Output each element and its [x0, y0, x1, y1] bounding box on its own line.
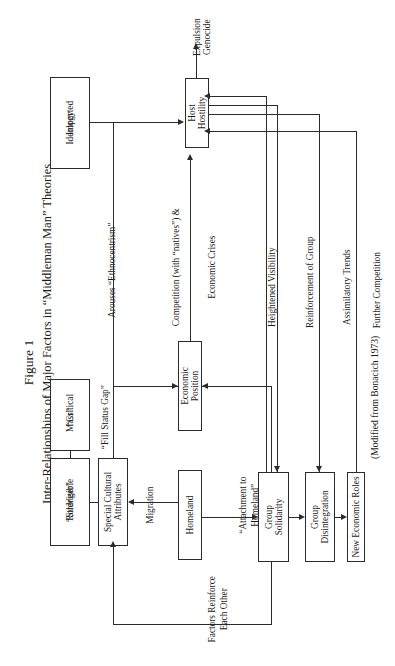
node-special-cultural-attributes: Special Cultural Attributes [98, 458, 128, 546]
edge-label-assimilatory-trends: Assimilatory Trends [342, 222, 352, 352]
edge-label-factors-reinforce-2: Each Other [219, 554, 229, 664]
node-label: Group [263, 473, 273, 561]
connector-hostility-to-expulsion [196, 48, 197, 78]
node-label: Ideology [65, 83, 75, 173]
node-label: Attributes [113, 459, 123, 545]
connector-attachment-to-homeland [202, 517, 253, 518]
figure-title: Inter-Relationships of Major Factors in … [40, 174, 54, 504]
node-label: Economic [180, 342, 190, 430]
node-new-economic-roles: New Economic Roles [347, 472, 365, 562]
node-label: Solidarity [273, 473, 283, 561]
connector-economic-inflow-right [208, 386, 272, 387]
figure-number: Figure 1 [21, 298, 36, 428]
arrowhead-right [252, 514, 258, 520]
connector-fillstatusgap-vertical [113, 386, 114, 458]
node-label: Position [190, 342, 200, 430]
node-label: Hostility [197, 78, 207, 148]
node-label: Group [310, 471, 320, 563]
connector-visibility-horizontal [209, 96, 267, 97]
node-label: Role [65, 472, 75, 552]
node-label: Host [187, 78, 197, 148]
connector-visibility-vertical [266, 96, 267, 472]
edge-label-further-competition: Further Competition [372, 228, 382, 353]
edge-label-factors-reinforce: Factors Reinforce [207, 554, 217, 664]
edge-label-reinforcement-of-group: Reinforcement of Group [305, 212, 315, 352]
arrowhead-right [178, 119, 184, 125]
node-homeland: Homeland [178, 470, 202, 560]
connector-migration [133, 502, 178, 503]
edge-label-arouses-ethnocentrism: Arouses “Ethnocentrism” [107, 195, 117, 345]
arrowhead-right [341, 514, 347, 520]
arrowhead-up [187, 154, 193, 160]
edge-label-heightened-visibility: Heightened Visibility [267, 222, 277, 352]
edge-label-attachment-to-homeland-2: Homeland” [250, 462, 260, 548]
arrowhead-up [110, 541, 116, 547]
node-host-hostility: Host Hostility [185, 78, 209, 148]
arrowhead-right [299, 514, 305, 520]
connector-economic-inflow-riser [271, 386, 272, 472]
connector-further-competition-vertical [356, 131, 357, 472]
connector-stranger-to-cultural [90, 502, 98, 503]
arrowhead-right [172, 383, 178, 389]
connector-assimilatory-vertical [319, 114, 320, 472]
node-label: Disintegration [320, 471, 330, 563]
arrowhead-left [204, 93, 210, 99]
outcome-genocide: Genocide [202, 2, 212, 72]
edge-label-fill-status-gap: “Fill Status Gap” [100, 367, 110, 467]
connector-reinforcement-horizontal [209, 105, 278, 106]
arrowhead-down [316, 466, 322, 472]
connector-criticalmass-to-stranger [70, 451, 71, 458]
node-label: New Economic Roles [351, 471, 361, 563]
arrowhead-left [128, 499, 134, 505]
edge-label-attachment-to-homeland: “Attachment to [238, 462, 248, 548]
connector-ideology-to-hostility [90, 122, 178, 123]
arrowhead-up [193, 43, 199, 49]
node-critical-mass: “Critical Mass” [50, 379, 90, 451]
node-group-solidarity: Group Solidarity [258, 472, 289, 562]
node-label: Special Cultural [103, 459, 113, 545]
connector-assimilatory-horizontal [209, 114, 320, 115]
connector-feedback-up-to-cultural [113, 546, 114, 624]
node-economic-position: Economic Position [178, 341, 202, 431]
connector-feedback-down-from-solidarity [271, 562, 272, 625]
edge-label-migration: Migration [145, 470, 155, 540]
connector-further-competition-horizontal [209, 131, 357, 132]
node-label: Homeland [185, 471, 195, 559]
figure-canvas: Figure 1 Inter-Relationships of Major Fa… [0, 0, 395, 666]
edge-label-competition-2: Economic Crises [207, 182, 217, 352]
node-group-disintegration: Group Disintegration [305, 472, 335, 562]
edge-label-competition: Competition (with “natives”) & [171, 182, 181, 352]
node-imported-ideology: Imported Ideology [50, 77, 90, 169]
connector-economic-to-hostility [190, 160, 191, 341]
connector-fillstatusgap-horizontal [113, 386, 178, 387]
connector-feedback-across [113, 624, 271, 625]
connector-reinforcement-vertical [277, 105, 278, 472]
node-visible-stranger-role: Visible “Stranger” Role [50, 458, 90, 546]
arrowhead-left [204, 128, 210, 134]
arrowhead-down [274, 466, 280, 472]
node-label: Mass” [65, 385, 75, 455]
arrowhead-left [202, 383, 208, 389]
